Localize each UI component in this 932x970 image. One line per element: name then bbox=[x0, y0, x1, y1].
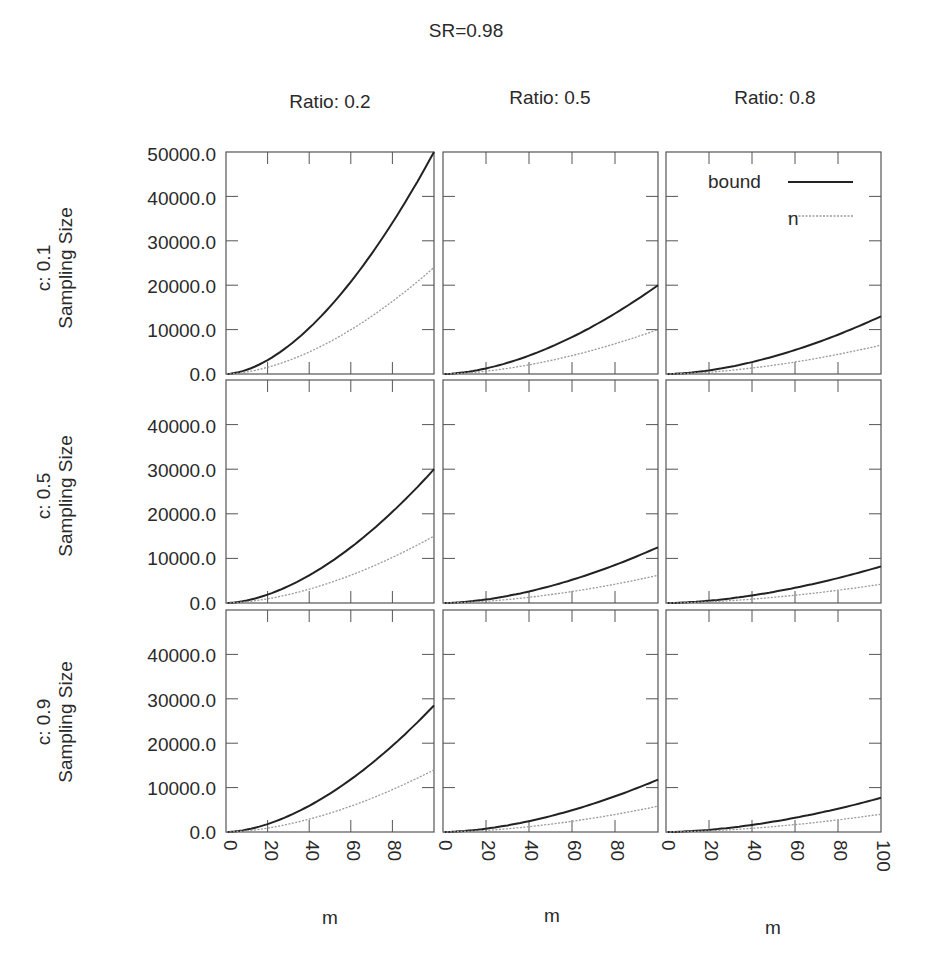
x-tick: 80 bbox=[606, 840, 628, 861]
x-tick: 60 bbox=[786, 840, 808, 861]
x-tick: 60 bbox=[342, 840, 364, 861]
x-tick: 0 bbox=[657, 840, 679, 851]
x-tick: 80 bbox=[829, 840, 851, 861]
legend-label-bound: bound bbox=[708, 171, 761, 193]
n-curve bbox=[666, 584, 881, 603]
n-curve bbox=[226, 536, 434, 603]
x-tick: 20 bbox=[260, 840, 282, 861]
legend-label-n: n bbox=[788, 208, 799, 230]
bound-curve bbox=[443, 285, 658, 374]
x-tick: 40 bbox=[520, 840, 542, 861]
n-curve bbox=[226, 267, 434, 374]
facet-plot-grid bbox=[0, 0, 932, 970]
bound-curve bbox=[443, 780, 658, 832]
x-axis-label-col-1: m bbox=[310, 907, 350, 929]
n-curve bbox=[666, 345, 881, 374]
n-curve bbox=[443, 806, 658, 832]
n-curve bbox=[443, 575, 658, 603]
x-tick: 20 bbox=[700, 840, 722, 861]
x-tick: 100 bbox=[872, 840, 894, 872]
x-tick: 20 bbox=[477, 840, 499, 861]
bound-curve bbox=[666, 316, 881, 374]
bound-curve bbox=[226, 152, 434, 374]
panel-frame bbox=[666, 380, 881, 603]
bound-curve bbox=[666, 566, 881, 603]
x-tick: 40 bbox=[301, 840, 323, 861]
panel-frame bbox=[666, 610, 881, 832]
x-tick: 60 bbox=[563, 840, 585, 861]
n-curve bbox=[226, 770, 434, 832]
bound-curve bbox=[666, 798, 881, 832]
x-tick: 40 bbox=[743, 840, 765, 861]
x-axis-label-col-3: m bbox=[753, 917, 793, 939]
n-curve bbox=[443, 330, 658, 374]
panel-frame bbox=[666, 152, 881, 374]
x-tick: 0 bbox=[219, 840, 241, 851]
panel-frame bbox=[226, 380, 434, 603]
panel-frame bbox=[443, 380, 658, 603]
x-tick: 80 bbox=[383, 840, 405, 861]
n-curve bbox=[666, 814, 881, 832]
bound-curve bbox=[443, 547, 658, 603]
x-tick: 0 bbox=[434, 840, 456, 851]
x-axis-label-col-2: m bbox=[532, 905, 572, 927]
panel-frame bbox=[443, 610, 658, 832]
panel-frame bbox=[226, 610, 434, 832]
panel-frame bbox=[226, 152, 434, 374]
